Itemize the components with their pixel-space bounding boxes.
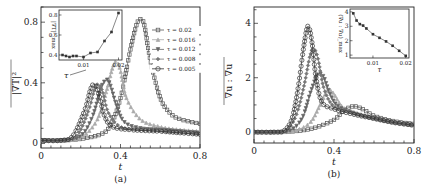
inset-marker	[68, 56, 71, 59]
data-point-marker	[104, 103, 107, 106]
data-point-marker	[107, 111, 110, 114]
data-point-marker	[88, 122, 91, 125]
data-point-marker	[114, 100, 117, 103]
data-point-marker	[311, 117, 314, 120]
panel-b: 00.40.8024t(b)∇u : ∇u0.010.021234τ(∇u : …	[223, 7, 421, 179]
x-tick-label: 0.8	[407, 146, 422, 156]
inset-y-label: |∇T|²_max	[50, 21, 57, 50]
legend-item: τ = 0.02	[150, 26, 210, 34]
inset-marker	[65, 55, 68, 58]
data-point-marker	[152, 123, 155, 126]
legend-item: τ = 0.012	[150, 45, 210, 53]
data-point-marker	[318, 65, 321, 68]
inset-plot: 0.010.021234τ(∇u : ∇u)_max	[337, 8, 412, 74]
inset-plot: 0.010.020.40.60.8|∇T|²_max	[49, 10, 125, 68]
inset-x-tick-label: 0.02	[112, 62, 124, 68]
data-point-marker	[306, 64, 309, 67]
inset-marker	[89, 52, 92, 55]
legend-label: τ = 0.02	[167, 27, 192, 33]
series-line	[41, 84, 200, 141]
legend-label: τ = 0.012	[167, 46, 196, 52]
y-axis-label: |∇T|²	[10, 72, 22, 95]
data-point-marker	[299, 100, 302, 103]
data-point-marker	[88, 105, 91, 108]
inset-y-tick-label: 0.4	[49, 52, 58, 58]
data-point-marker	[97, 114, 100, 117]
data-point-marker	[117, 111, 120, 114]
data-point-marker	[300, 92, 303, 95]
inset-marker	[372, 33, 375, 36]
inset-marker	[398, 49, 401, 52]
data-point-marker	[305, 103, 308, 106]
inset-marker	[355, 19, 358, 22]
data-point-marker	[308, 55, 311, 58]
x-tick-label: 0.4	[327, 146, 342, 156]
data-point-marker	[307, 60, 310, 63]
data-point-marker	[86, 126, 89, 129]
y-axis-label: ∇u : ∇u	[223, 64, 234, 99]
x-tick-label: 0	[251, 146, 257, 156]
inset-x-tick-label: 0.01	[77, 62, 89, 68]
inset-marker	[117, 12, 120, 15]
data-point-marker	[307, 95, 310, 98]
data-point-marker	[129, 105, 132, 108]
inset-marker	[82, 56, 85, 59]
data-point-marker	[119, 70, 122, 73]
data-point-marker	[298, 104, 301, 107]
x-tick-label: 0.8	[193, 151, 208, 161]
x-axis-label: t	[119, 161, 123, 172]
inset-y-label: (∇u : ∇u)_max	[337, 14, 344, 54]
inset-marker	[61, 54, 64, 57]
x-tick-label: 0.4	[113, 151, 128, 161]
y-tick-label: 0	[32, 138, 38, 148]
data-point-marker	[309, 91, 312, 94]
data-point-marker	[298, 127, 301, 130]
y-tick-label: 0	[245, 127, 251, 137]
inset-marker	[352, 12, 355, 15]
data-point-marker	[123, 89, 126, 92]
inset-marker	[404, 55, 407, 58]
x-axis-label: t	[332, 156, 336, 167]
series-line	[41, 80, 200, 141]
data-point-marker	[91, 92, 94, 95]
data-point-marker	[90, 117, 93, 120]
data-point-marker	[112, 96, 115, 99]
data-point-marker	[90, 96, 93, 99]
data-point-marker	[148, 122, 151, 125]
data-point-marker	[99, 110, 102, 113]
tau-annotation: τ	[64, 71, 69, 80]
data-point-marker	[93, 110, 96, 113]
inset-y-tick-label: 2	[345, 37, 349, 44]
inset-marker	[378, 37, 381, 40]
legend-label: τ = 0.008	[167, 56, 196, 62]
legend-item: τ = 0.008	[150, 55, 210, 63]
inset-y-tick-label: 0.8	[49, 12, 58, 18]
panel-label: (b)	[328, 169, 341, 179]
figure: 00.40.800.40.8t(a)|∇T|²0.010.020.40.60.8…	[0, 0, 424, 188]
inset-marker	[75, 55, 78, 58]
data-point-marker	[322, 85, 325, 88]
inset-marker	[362, 24, 365, 27]
data-point-marker	[105, 87, 108, 90]
inset-marker	[359, 23, 362, 26]
inset-y-tick-label: 4	[345, 8, 349, 15]
data-point-marker	[313, 114, 316, 117]
data-point-marker	[126, 123, 129, 126]
data-point-marker	[330, 96, 333, 99]
inset-x-label: τ	[378, 66, 382, 74]
data-point-marker	[325, 85, 328, 88]
data-point-marker	[111, 92, 114, 95]
data-point-marker	[302, 125, 305, 128]
y-tick-label: 2	[245, 73, 251, 83]
data-point-marker	[144, 121, 147, 124]
data-point-marker	[315, 110, 318, 113]
y-tick-label: 0.4	[24, 78, 39, 88]
legend-item: τ = 0.016	[150, 36, 210, 44]
data-point-marker	[316, 57, 319, 60]
data-point-marker	[326, 97, 329, 100]
inset-marker	[385, 40, 388, 43]
data-point-marker	[127, 101, 130, 104]
data-point-marker	[328, 92, 331, 95]
data-point-marker	[301, 88, 304, 91]
data-point-marker	[304, 107, 307, 110]
